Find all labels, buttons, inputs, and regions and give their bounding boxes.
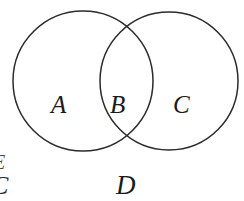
region-label-b: B <box>110 92 125 117</box>
region-label-a: A <box>51 92 66 117</box>
figure-label-d: D <box>116 172 136 199</box>
venn-diagram-figure: A B C D E C <box>0 0 244 201</box>
cropped-edge-letter-c: C <box>0 173 8 199</box>
cropped-edge-mark: E <box>0 152 5 172</box>
venn-circle-right <box>100 12 238 150</box>
venn-circle-left <box>13 11 153 151</box>
region-label-c: C <box>173 92 190 117</box>
